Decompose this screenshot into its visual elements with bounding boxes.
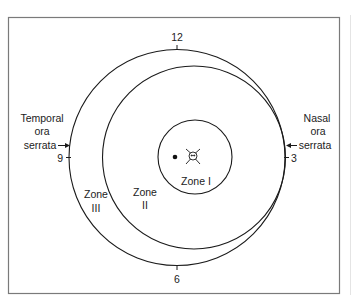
adjacent-panel-edge [350,15,351,295]
zone-ii-label: Zone II [133,186,157,211]
svg-text:Temporal: Temporal [20,112,63,124]
svg-text:serrata: serrata [299,139,332,151]
svg-text:II: II [142,199,148,211]
svg-text:III: III [92,202,101,214]
svg-text:Zone: Zone [84,188,108,200]
clock-3-label: 3 [291,152,297,164]
svg-text:Nasal: Nasal [304,112,331,124]
svg-text:serrata: serrata [24,139,57,151]
clock-6-label: 6 [174,273,180,285]
zone-diagram: 12 6 9 3 Temporal ora serrata Nasal ora … [0,0,354,303]
zone-iii-label: Zone III [84,188,108,214]
svg-text:ora: ora [34,125,49,137]
nasal-arrow-icon [286,143,297,148]
clock-12-label: 12 [171,31,183,43]
svg-text:ora: ora [310,125,325,137]
temporal-ora-serrata-label: Temporal ora serrata [20,112,63,151]
zone-i-label: Zone I [181,175,211,187]
clock-9-label: 9 [57,152,63,164]
nasal-ora-serrata-label: Nasal ora serrata [299,112,332,151]
optic-disc-dot-icon [173,155,178,160]
middle-circle-zone-ii [103,66,286,249]
macula-symbol-icon [186,149,200,164]
svg-text:Zone: Zone [133,186,157,198]
temporal-arrow-icon [58,143,70,148]
